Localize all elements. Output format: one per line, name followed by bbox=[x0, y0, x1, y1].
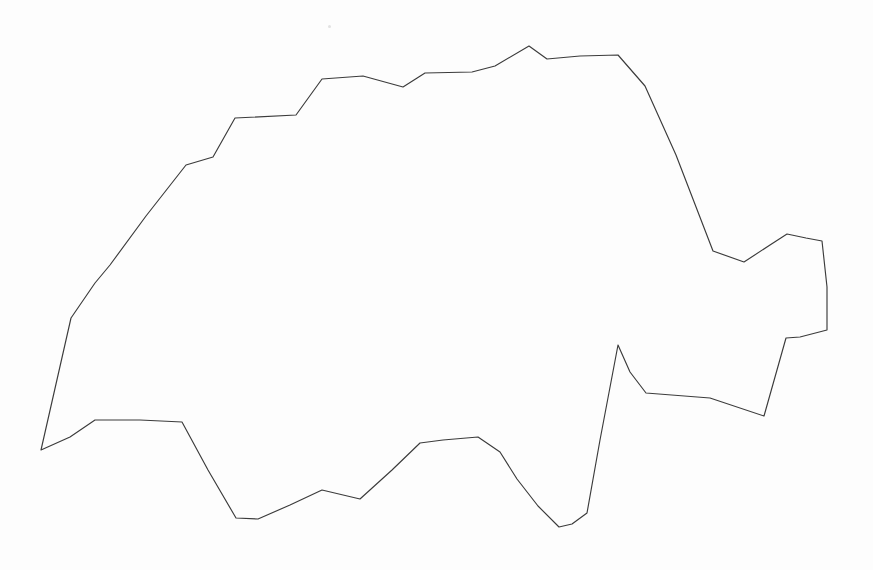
map-svg bbox=[0, 0, 873, 570]
country-border-outline bbox=[41, 46, 827, 527]
map-canvas bbox=[0, 0, 873, 570]
